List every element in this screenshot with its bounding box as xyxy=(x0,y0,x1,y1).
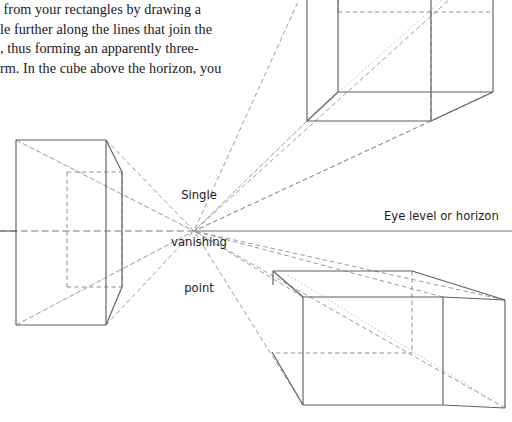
page-root: from your rectangles by drawing a le fur… xyxy=(0,0,512,422)
top-plane-diagonal xyxy=(288,275,505,408)
vanishing-point-label-line-2: vanishing xyxy=(157,235,241,251)
side-face-top-edge xyxy=(106,140,122,172)
base-right-receding-edge xyxy=(431,92,493,121)
left-box-near-face xyxy=(16,140,106,325)
left-box-right-side-face xyxy=(106,140,122,325)
lower-right-box-top-plane xyxy=(273,271,505,300)
lower-right-box-near-face xyxy=(303,297,443,405)
lower-right-box-diagonals xyxy=(288,275,505,408)
left-box-far-face xyxy=(67,172,122,287)
side-face-bottom-edge xyxy=(443,405,505,408)
wedge-lower-edge xyxy=(272,352,303,405)
lower-right-box-right-side-face xyxy=(443,300,505,408)
lower-right-box-left-wedge xyxy=(272,271,303,405)
base-left-receding-edge xyxy=(307,92,338,121)
lower-right-box-hidden-edges xyxy=(276,271,412,353)
top-plane-left-edge xyxy=(273,271,303,297)
vanishing-point-label-line-3: point xyxy=(157,281,241,297)
vanishing-point-label: Single vanishing point xyxy=(157,157,241,328)
top-plane-rear-right-edge xyxy=(412,271,505,300)
horizon-label: Eye level or horizon xyxy=(384,209,499,225)
side-face-bottom-edge xyxy=(106,287,122,325)
vanishing-point-label-line-1: Single xyxy=(157,188,241,204)
